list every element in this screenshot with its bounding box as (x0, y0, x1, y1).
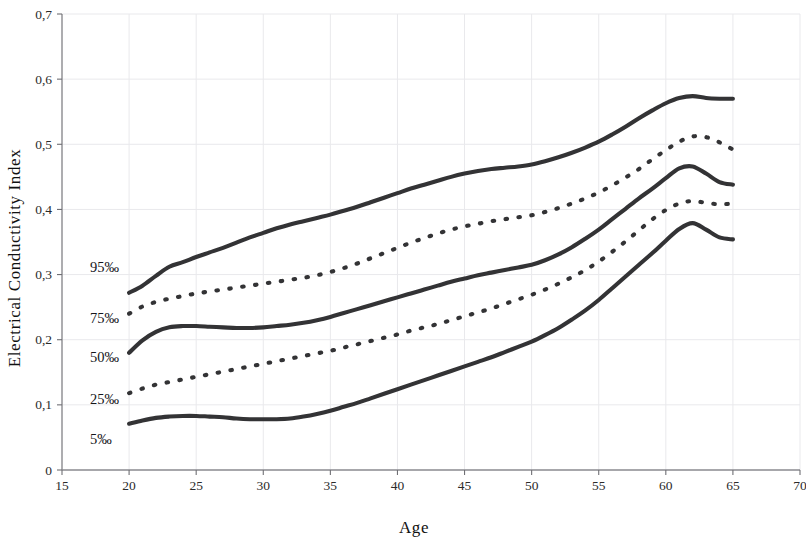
x-tick-label: 60 (659, 478, 673, 493)
chart-background (0, 0, 806, 545)
x-tick-label: 25 (189, 478, 203, 493)
y-tick-label: 0,6 (35, 72, 52, 87)
x-tick-label: 30 (257, 478, 271, 493)
y-tick-label: 0 (45, 463, 52, 478)
line-chart: 00,10,20,30,40,50,60,7 15202530354045505… (0, 0, 806, 545)
x-tick-label: 55 (592, 478, 606, 493)
x-tick-label: 50 (525, 478, 539, 493)
y-tick-label: 0,4 (35, 202, 52, 217)
x-tick-label: 35 (324, 478, 338, 493)
x-tick-label: 65 (726, 478, 740, 493)
chart-figure: 00,10,20,30,40,50,60,7 15202530354045505… (0, 0, 806, 545)
curve-label: 25‰ (90, 391, 120, 407)
curve-label: 50‰ (90, 349, 120, 365)
x-tick-label: 20 (122, 478, 136, 493)
y-axis-title: Electrical Conductivity Index (5, 149, 24, 368)
y-tick-label: 0,5 (35, 137, 52, 152)
curve-label: 75‰ (90, 310, 120, 326)
y-tick-label: 0,7 (35, 7, 52, 22)
x-tick-label: 45 (458, 478, 472, 493)
x-axis-title: Age (399, 518, 429, 537)
y-tick-label: 0,2 (35, 332, 52, 347)
x-tick-label: 40 (391, 478, 405, 493)
y-tick-label: 0,3 (35, 267, 52, 282)
x-tick-label: 70 (793, 478, 806, 493)
curve-label: 95‰ (90, 259, 120, 275)
x-tick-label: 15 (55, 478, 69, 493)
curve-label: 5‰ (90, 431, 112, 447)
y-tick-label: 0,1 (35, 397, 52, 412)
